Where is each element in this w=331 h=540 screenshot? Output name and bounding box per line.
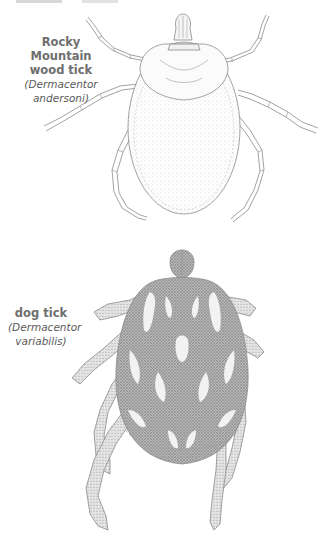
wood-tick-common-name-line-1: Rocky [2, 35, 120, 49]
dog-tick-label: dog tick (Dermacentor variabilis) [8, 306, 74, 348]
wood-tick-common-name-line-3: wood tick [2, 63, 120, 77]
dog-tick-scientific-name-line-1: (Dermacentor [8, 320, 74, 334]
wood-tick-scientific-name: (Dermacentor andersoni) [2, 77, 120, 105]
dog-tick-drawing [72, 250, 264, 530]
dog-tick-scientific-name-line-2: variabilis) [8, 334, 74, 348]
dog-tick-common-name: dog tick [8, 306, 74, 320]
wood-tick-common-name-line-2: Mountain [2, 49, 120, 63]
wood-tick-label: Rocky Mountain wood tick (Dermacentor an… [2, 35, 120, 105]
